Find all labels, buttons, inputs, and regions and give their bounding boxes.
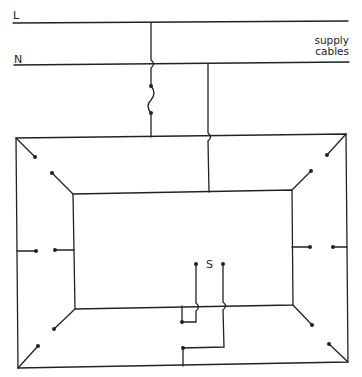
live-drop — [151, 23, 154, 86]
neutral-label: N — [14, 54, 22, 65]
outer-ring — [16, 134, 348, 368]
supply-label-line2: cables — [314, 46, 349, 57]
switch-lead-right — [183, 264, 226, 366]
neutral-drop — [208, 64, 211, 192]
wiring-diagram — [0, 0, 362, 377]
live-cable — [13, 21, 348, 23]
supply-cables-label: supply cables — [314, 35, 349, 57]
switch-label: S — [206, 259, 213, 270]
live-label: L — [13, 10, 19, 21]
terminal-dots — [33, 84, 335, 350]
switch-lead-left — [182, 264, 199, 322]
inner-ring — [73, 190, 293, 309]
neutral-cable — [14, 62, 349, 65]
fuse-symbol — [148, 86, 154, 113]
